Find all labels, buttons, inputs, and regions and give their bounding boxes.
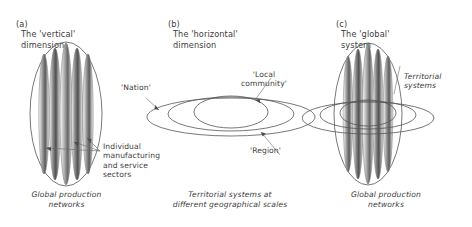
- panel-a-graphic: [0, 36, 160, 216]
- nation-label: 'Nation': [121, 83, 151, 92]
- territorial-systems-label: Territorial systems: [404, 72, 466, 91]
- panel-c-graphic: [302, 36, 472, 216]
- sector-spindles: [39, 43, 93, 185]
- panel-b-title: (b) The 'horizontal' dimension: [168, 8, 238, 50]
- region-label: 'Region': [250, 146, 281, 155]
- nation-ellipse: [147, 98, 315, 136]
- local-community-label: 'Local community': [233, 70, 295, 89]
- figure-root: (a) The 'vertical' dimension: [0, 0, 472, 227]
- panel-a-caption: Global production networks: [4, 190, 129, 210]
- sector-spindles: [343, 44, 393, 184]
- panel-b-title-text: The 'horizontal' dimension: [173, 29, 238, 50]
- panel-a-marker: (a): [16, 19, 28, 30]
- panel-b-caption: Territorial systems at different geograp…: [150, 190, 310, 210]
- panel-c-caption: Global production networks: [320, 190, 452, 210]
- panel-c-marker: (c): [336, 19, 347, 30]
- panel-b-marker: (b): [168, 19, 180, 30]
